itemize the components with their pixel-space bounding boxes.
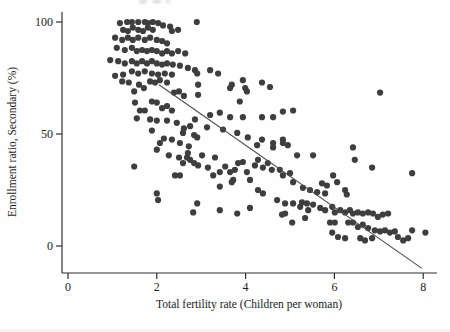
- scatter-point: [352, 157, 358, 163]
- scatter-point: [270, 144, 276, 150]
- scatter-point: [204, 124, 210, 130]
- scatter-point: [157, 77, 163, 83]
- scatter-point: [409, 170, 415, 176]
- scatter-point: [237, 98, 243, 104]
- scatter-point: [129, 68, 135, 74]
- scatter-point: [129, 19, 135, 25]
- scatter-point: [385, 210, 391, 216]
- scatter-point: [212, 154, 218, 160]
- scatter-point: [164, 79, 170, 85]
- scatter-point: [132, 100, 138, 106]
- scatter-point: [185, 65, 191, 71]
- y-tick-label: 0: [47, 239, 53, 253]
- scatter-point: [130, 37, 136, 43]
- scatter-point: [222, 163, 228, 169]
- scatter-point: [164, 60, 170, 66]
- scatter-point: [405, 235, 411, 241]
- scatter-point: [135, 70, 141, 76]
- scatter-point: [304, 200, 310, 206]
- scatter-point: [154, 60, 160, 66]
- scatter-point: [122, 60, 128, 66]
- scatter-point: [210, 172, 216, 178]
- scatter-point: [135, 35, 141, 41]
- scatter-point: [217, 110, 223, 116]
- x-axis-label: Total fertility rate (Children per woman…: [156, 298, 342, 311]
- scatter-point: [169, 72, 175, 78]
- x-tick-marks: [68, 273, 423, 279]
- scatter-point: [177, 172, 183, 178]
- scatter-point: [180, 130, 186, 136]
- scatter-point: [217, 184, 223, 190]
- scatter-point: [377, 90, 383, 96]
- scatter-point: [112, 35, 118, 41]
- scatter-point: [147, 116, 153, 122]
- scatter-point: [244, 88, 250, 94]
- scatter-point: [245, 134, 251, 140]
- scatter-point: [192, 116, 198, 122]
- scatter-point: [176, 88, 182, 94]
- y-tick-label: 100: [35, 15, 53, 29]
- scatter-point: [142, 37, 148, 43]
- scatter-point: [392, 228, 398, 234]
- scatter-point: [329, 230, 335, 236]
- x-tick-label: 8: [420, 280, 426, 294]
- scatter-point: [372, 227, 378, 233]
- scatter-point: [194, 134, 200, 140]
- scatter-point: [114, 45, 120, 51]
- scatter-point: [217, 207, 223, 213]
- scatter-point: [164, 40, 170, 46]
- scatter-point: [187, 157, 193, 163]
- scatter-point: [207, 67, 213, 73]
- scatter-point: [285, 142, 291, 148]
- scatter-point: [259, 114, 265, 120]
- x-tick-label: 4: [243, 280, 249, 294]
- scatter-point: [169, 107, 175, 113]
- scatter-point: [195, 92, 201, 98]
- scatter-point: [154, 37, 160, 43]
- scatter-point: [324, 182, 330, 188]
- x-tick-labels: 02468: [65, 280, 426, 294]
- scatter-point: [332, 209, 338, 215]
- scatter-point: [310, 202, 316, 208]
- scatter-point: [199, 152, 205, 158]
- scatter-point: [260, 165, 266, 171]
- scatter-point: [126, 79, 132, 85]
- scatter-point: [259, 79, 265, 85]
- scatter-point: [107, 57, 113, 63]
- scatter-point: [170, 62, 176, 68]
- scatter-point: [174, 120, 180, 126]
- scatter-point: [195, 82, 201, 88]
- scatter-point: [270, 114, 276, 120]
- scatter-point: [252, 162, 258, 168]
- scatter-point: [119, 37, 125, 43]
- scatter-point: [362, 237, 368, 243]
- scatter-point: [322, 207, 328, 213]
- scatter-point: [122, 47, 128, 53]
- x-tick-label: 6: [331, 280, 337, 294]
- scatter-point: [240, 159, 246, 165]
- scatter-point: [169, 28, 175, 34]
- scatter-point: [147, 35, 153, 41]
- scatter-point: [344, 191, 350, 197]
- scatter-point: [305, 207, 311, 213]
- scatter-point: [131, 163, 137, 169]
- scatter-point: [195, 162, 201, 168]
- scatter-point: [149, 128, 155, 134]
- scatter-point: [290, 200, 296, 206]
- cropped-text-artifact: [135, 0, 173, 5]
- scatter-point: [335, 234, 341, 240]
- scatter-point: [186, 143, 192, 149]
- scatter-point: [154, 48, 160, 54]
- scatter-point: [205, 165, 211, 171]
- scatter-point: [322, 190, 328, 196]
- scatter-point: [334, 179, 340, 185]
- y-tick-labels: 050100: [35, 15, 53, 253]
- scatter-point: [260, 190, 266, 196]
- scatter-point: [279, 212, 285, 218]
- scatter-point: [160, 22, 166, 28]
- scatter-point: [164, 118, 170, 124]
- scatter-point: [227, 85, 233, 91]
- scatter-point: [330, 172, 336, 178]
- scatter-point: [267, 84, 273, 90]
- scatter-point: [130, 25, 136, 31]
